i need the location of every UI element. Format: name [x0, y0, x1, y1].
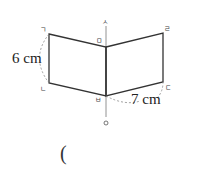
answer-open-paren: ( [60, 142, 67, 165]
vertex-label-bottom-right: ㄷ [165, 84, 171, 92]
vertex-label-bottom-left: ㄴ [40, 85, 46, 93]
figure: ㄱ ㄴ ㅁ ㅂ ㄹ ㄷ ㅅ 6 cm 7 cm ( [0, 0, 212, 171]
vertex-label-bottom-middle: ㅂ [95, 96, 101, 104]
vertex-label-top-right: ㄹ [164, 25, 170, 33]
vertex-label-top-left: ㄱ [40, 26, 46, 34]
axis-label-top: ㅅ [102, 18, 108, 26]
height-measurement: 6 cm [12, 50, 42, 66]
width-measurement: 7 cm [131, 91, 161, 107]
vertex-label-top-middle: ㅁ [96, 37, 102, 45]
axis-end-marker [104, 121, 108, 125]
right-panel [106, 33, 163, 96]
